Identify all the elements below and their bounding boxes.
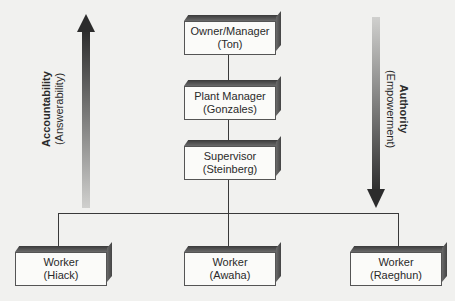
- authority-arrow-icon: [366, 17, 386, 209]
- node-role: Supervisor: [204, 150, 257, 163]
- node-role: Plant Manager: [194, 90, 266, 103]
- node-person: (Raeghun): [370, 269, 422, 282]
- authority-title: Authority: [397, 49, 410, 169]
- node-person: (Hiack): [44, 269, 79, 282]
- connector-supervisor-bus: [228, 180, 229, 213]
- authority-subtitle: (Empowerment): [384, 49, 397, 169]
- accountability-label: Accountability (Answerability): [40, 49, 66, 169]
- accountability-title: Accountability: [40, 49, 53, 169]
- node-worker-raeghun: Worker (Raeghun): [350, 252, 442, 286]
- node-role: Worker: [378, 256, 413, 269]
- node-role: Owner/Manager: [191, 25, 270, 38]
- node-person: (Gonzales): [203, 103, 257, 116]
- accountability-arrow-icon: [76, 14, 96, 208]
- node-role: Worker: [43, 256, 78, 269]
- node-plant-manager: Plant Manager (Gonzales): [184, 86, 276, 120]
- node-person: (Awaha): [210, 269, 251, 282]
- node-supervisor: Supervisor (Steinberg): [184, 146, 276, 180]
- node-worker-hiack: Worker (Hiack): [15, 252, 107, 286]
- accountability-subtitle: (Answerability): [53, 49, 66, 169]
- node-person: (Ton): [217, 38, 242, 51]
- node-person: (Steinberg): [203, 163, 257, 176]
- authority-label: Authority (Empowerment): [384, 49, 410, 169]
- node-role: Worker: [212, 256, 247, 269]
- node-worker-awaha: Worker (Awaha): [184, 252, 276, 286]
- node-owner-manager: Owner/Manager (Ton): [184, 21, 276, 55]
